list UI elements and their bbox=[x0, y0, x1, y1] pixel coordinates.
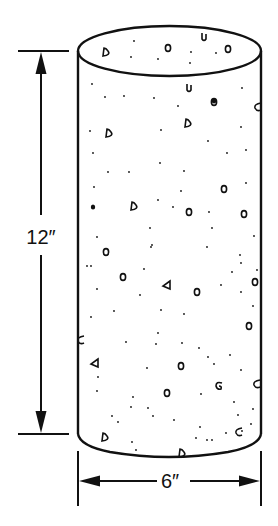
aggregate-speck bbox=[173, 419, 175, 421]
aggregate-speck bbox=[252, 305, 254, 307]
aggregate-speck bbox=[123, 95, 125, 97]
aggregate-speck bbox=[220, 284, 222, 286]
aggregate-speck bbox=[147, 407, 149, 409]
aggregate-speck bbox=[250, 423, 252, 425]
aggregate-speck bbox=[113, 310, 115, 312]
arrow-down-icon bbox=[36, 411, 47, 433]
aggregate-speck bbox=[133, 40, 135, 42]
aggregate-speck bbox=[157, 332, 159, 334]
aggregate-speck bbox=[157, 199, 159, 201]
aggregate-speck bbox=[130, 406, 132, 408]
aggregate-speck bbox=[241, 87, 243, 89]
aggregate-speck bbox=[160, 309, 162, 311]
aggregate-speck bbox=[256, 269, 258, 271]
aggregate-speck bbox=[172, 206, 174, 208]
aggregate-speck bbox=[157, 58, 159, 60]
aggregate-pebble bbox=[252, 279, 257, 286]
aggregate-speck bbox=[135, 449, 137, 451]
aggregate-speck bbox=[245, 182, 247, 184]
aggregate-speck bbox=[190, 51, 192, 53]
aggregate-speck bbox=[96, 288, 98, 290]
cylinder-bottom-curve bbox=[78, 434, 261, 457]
aggregate-speck bbox=[199, 426, 201, 428]
aggregate-speck bbox=[107, 171, 109, 173]
aggregate-pebble bbox=[103, 48, 109, 56]
aggregate-speck bbox=[211, 227, 213, 229]
aggregate-speck bbox=[206, 439, 208, 441]
aggregate-speck bbox=[93, 186, 95, 188]
aggregate-speck bbox=[233, 401, 235, 403]
aggregate-pebble bbox=[106, 129, 112, 137]
aggregate-speck bbox=[207, 356, 209, 358]
aggregate-speck bbox=[131, 441, 133, 443]
aggregate-speck bbox=[183, 170, 185, 172]
aggregate-pebble bbox=[241, 211, 246, 218]
aggregate-pebble bbox=[186, 209, 191, 216]
concrete-cylinder-diagram: 12″ 6″ bbox=[0, 0, 278, 526]
aggregate-speck bbox=[117, 421, 119, 423]
aggregate-speck bbox=[240, 262, 242, 264]
aggregate-speck bbox=[245, 149, 247, 151]
aggregate-pebble bbox=[120, 274, 125, 281]
aggregate-speck bbox=[139, 294, 141, 296]
aggregate-speck bbox=[177, 105, 179, 107]
aggregate-speck bbox=[150, 246, 152, 248]
aggregate-pebble bbox=[202, 33, 206, 41]
arrow-right-icon bbox=[239, 476, 260, 487]
aggregate-speck bbox=[200, 393, 202, 395]
aggregate-speck bbox=[226, 152, 228, 154]
aggregate-speck bbox=[213, 363, 215, 365]
aggregate-pebble bbox=[179, 449, 185, 457]
aggregate-speck bbox=[206, 246, 208, 248]
aggregate-speck bbox=[159, 162, 161, 164]
aggregate-pebble bbox=[163, 281, 170, 289]
aggregate-speck bbox=[149, 227, 151, 229]
aggregate-speck bbox=[207, 140, 209, 142]
aggregate-texture bbox=[78, 33, 261, 457]
aggregate-speck bbox=[183, 313, 185, 315]
aggregate-speck bbox=[90, 316, 92, 318]
aggregate-speck bbox=[241, 430, 243, 432]
aggregate-speck bbox=[96, 236, 98, 238]
aggregate-pebble bbox=[194, 289, 199, 296]
aggregate-speck bbox=[151, 244, 153, 246]
aggregate-speck bbox=[111, 415, 113, 417]
arrow-up-icon bbox=[36, 52, 47, 74]
aggregate-speck bbox=[130, 56, 132, 58]
aggregate-speck bbox=[239, 254, 241, 256]
aggregate-speck bbox=[231, 271, 233, 273]
aggregate-pebble bbox=[178, 363, 183, 370]
aggregate-pebble bbox=[185, 119, 191, 127]
aggregate-speck bbox=[97, 376, 99, 378]
aggregate-speck bbox=[155, 343, 157, 345]
aggregate-speck bbox=[181, 342, 183, 344]
aggregate-speck bbox=[146, 367, 148, 369]
aggregate-speck bbox=[252, 408, 254, 410]
aggregate-dark-particle bbox=[91, 204, 95, 209]
aggregate-speck bbox=[180, 190, 182, 192]
aggregate-pebble bbox=[103, 249, 108, 256]
aggregate-pebble bbox=[216, 382, 222, 389]
aggregate-pebble bbox=[165, 45, 170, 52]
aggregate-pebble bbox=[131, 202, 137, 210]
aggregate-pebble bbox=[91, 359, 98, 367]
aggregate-speck bbox=[195, 437, 197, 439]
aggregate-speck bbox=[215, 52, 217, 54]
aggregate-speck bbox=[253, 235, 255, 237]
aggregate-speck bbox=[89, 130, 91, 132]
aggregate-pebble bbox=[254, 380, 260, 388]
arrow-left-icon bbox=[79, 476, 100, 487]
aggregate-speck bbox=[86, 265, 88, 267]
aggregate-pebble bbox=[246, 323, 251, 330]
aggregate-speck bbox=[225, 432, 227, 434]
aggregate-speck bbox=[211, 439, 213, 441]
aggregate-speck bbox=[92, 152, 94, 154]
aggregate-speck bbox=[240, 369, 242, 371]
aggregate-pebble bbox=[164, 390, 169, 397]
aggregate-speck bbox=[189, 62, 191, 64]
aggregate-pebble bbox=[102, 433, 108, 441]
aggregate-speck bbox=[229, 354, 231, 356]
aggregate-speck bbox=[91, 83, 93, 85]
diameter-label: 6″ bbox=[161, 470, 179, 492]
aggregate-pebble bbox=[225, 46, 230, 53]
